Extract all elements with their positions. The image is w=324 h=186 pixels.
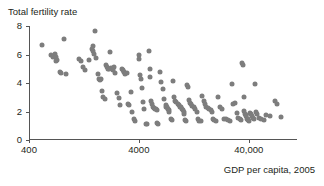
data-point bbox=[241, 63, 246, 68]
data-point bbox=[86, 58, 91, 63]
data-point bbox=[185, 85, 190, 90]
data-point bbox=[213, 119, 218, 124]
data-point bbox=[215, 94, 220, 99]
data-point bbox=[91, 43, 96, 48]
data-point bbox=[137, 52, 142, 57]
data-point bbox=[94, 56, 99, 61]
data-point bbox=[267, 114, 272, 119]
y-tick-label: 0 bbox=[8, 135, 22, 145]
data-point bbox=[93, 28, 98, 33]
data-point bbox=[184, 119, 189, 124]
data-point bbox=[142, 107, 147, 112]
x-axis-title: GDP per capita, 2005 bbox=[224, 164, 315, 176]
data-point bbox=[62, 36, 67, 41]
data-point bbox=[129, 90, 134, 95]
y-tick-label: 2 bbox=[8, 107, 22, 117]
data-point bbox=[144, 121, 149, 126]
data-point bbox=[117, 95, 122, 100]
data-point bbox=[126, 103, 131, 108]
data-point bbox=[238, 118, 243, 123]
data-point bbox=[130, 110, 135, 115]
data-point bbox=[147, 66, 152, 71]
x-tick-label: 4000 bbox=[128, 145, 149, 155]
data-point bbox=[154, 108, 159, 113]
data-point bbox=[194, 109, 199, 114]
data-point bbox=[113, 71, 118, 76]
data-point bbox=[156, 121, 161, 126]
data-point bbox=[229, 82, 234, 87]
data-point bbox=[278, 115, 283, 120]
data-point bbox=[39, 42, 44, 47]
data-point bbox=[198, 119, 203, 124]
data-point bbox=[124, 71, 129, 76]
data-point bbox=[100, 88, 105, 93]
data-point bbox=[112, 65, 117, 70]
data-point bbox=[209, 110, 214, 115]
y-tick-label: 4 bbox=[8, 78, 22, 88]
data-point bbox=[167, 110, 172, 115]
data-point bbox=[64, 72, 69, 77]
data-point bbox=[136, 56, 141, 61]
scatter-plot-area bbox=[29, 26, 297, 140]
data-point bbox=[160, 87, 165, 92]
data-point bbox=[55, 58, 60, 63]
data-point bbox=[98, 77, 103, 82]
x-tick-label: 40,000 bbox=[234, 145, 263, 155]
data-point bbox=[140, 85, 145, 90]
data-point bbox=[102, 96, 107, 101]
data-point bbox=[146, 48, 151, 53]
data-point bbox=[159, 79, 164, 84]
y-tick-label: 8 bbox=[8, 21, 22, 31]
data-point bbox=[141, 100, 146, 105]
y-tick-label: 6 bbox=[8, 50, 22, 60]
data-point bbox=[253, 81, 258, 86]
data-point bbox=[227, 119, 232, 124]
chart-figure: Total fertility rate 02468 400400040,000… bbox=[0, 0, 324, 186]
data-point bbox=[220, 106, 225, 111]
data-point bbox=[261, 118, 266, 123]
chart-title: Total fertility rate bbox=[8, 6, 77, 18]
data-point bbox=[169, 118, 174, 123]
data-point bbox=[139, 76, 144, 81]
data-point bbox=[148, 75, 153, 80]
data-point bbox=[171, 78, 176, 83]
data-point bbox=[79, 58, 84, 63]
data-point bbox=[118, 103, 123, 108]
data-point bbox=[157, 70, 162, 75]
data-point bbox=[233, 100, 238, 105]
data-point bbox=[182, 111, 187, 116]
data-point bbox=[274, 102, 279, 107]
data-point bbox=[133, 118, 138, 123]
x-tick-label: 400 bbox=[21, 145, 37, 155]
data-point bbox=[241, 95, 246, 100]
data-point bbox=[82, 68, 87, 73]
data-point bbox=[108, 50, 113, 55]
data-point bbox=[162, 97, 167, 102]
